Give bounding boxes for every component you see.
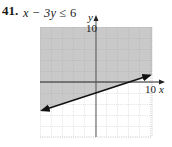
y-tick-10: 10 <box>86 22 98 34</box>
x-axis-label: x <box>158 83 164 95</box>
x-tick-10: 10 <box>145 83 157 95</box>
y-axis-arrow-icon <box>94 15 99 21</box>
graph: y 10 10 x <box>0 0 172 147</box>
